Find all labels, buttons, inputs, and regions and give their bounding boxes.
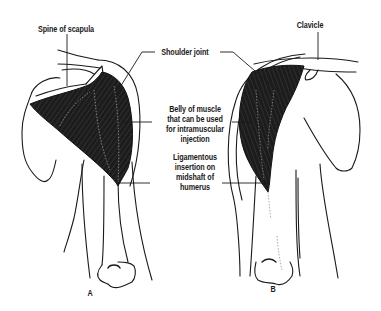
label-line: that can be used	[161, 114, 229, 124]
label-spine-of-scapula: Spine of scapula	[33, 24, 99, 34]
label-line: for intramuscular	[161, 124, 229, 134]
label-ligamentous-insertion: Ligamentous insertion on midshaft of hum…	[161, 152, 229, 192]
label-line: humerus	[161, 182, 229, 192]
deltoid-muscle-b	[239, 65, 304, 192]
label-text: A	[85, 288, 95, 298]
label-text: Shoulder joint	[155, 47, 215, 57]
panel-label-b: B	[268, 284, 278, 294]
label-shoulder-joint: Shoulder joint	[155, 47, 215, 57]
label-text: Spine of scapula	[33, 24, 99, 34]
label-text: B	[268, 284, 278, 294]
label-belly-of-muscle: Belly of muscle that can be used for int…	[161, 104, 229, 144]
label-clavicle: Clavicle	[293, 20, 327, 30]
label-line: injection	[161, 134, 229, 144]
label-text: Clavicle	[293, 20, 327, 30]
scapula-outline	[22, 78, 60, 182]
label-line: Ligamentous	[161, 152, 229, 162]
deltoid-muscle-a	[30, 72, 133, 186]
humerus-b-dotted	[268, 192, 282, 270]
label-line: Belly of muscle	[161, 104, 229, 114]
label-line: insertion on	[161, 162, 229, 172]
label-line: midshaft of	[161, 172, 229, 182]
panel-label-a: A	[85, 288, 95, 298]
